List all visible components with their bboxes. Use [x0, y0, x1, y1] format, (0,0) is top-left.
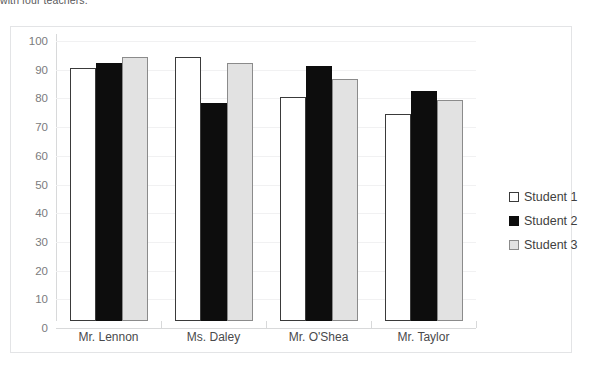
y-tick-label-40: 40 — [35, 207, 48, 219]
y-tick-label-10: 10 — [35, 293, 48, 305]
legend-item-series-3[interactable]: Student 3 — [509, 233, 591, 257]
bar-4-series-2[interactable] — [411, 91, 437, 321]
category-label-1: Mr. Lennon — [78, 330, 138, 344]
legend-label-series-1: Student 1 — [524, 190, 578, 204]
bar-group-3: Mr. O'Shea — [266, 34, 371, 321]
legend-item-series-2[interactable]: Student 2 — [509, 209, 591, 233]
plot-area: 1009080706050403020100 Mr. LennonMs. Dal… — [56, 34, 476, 328]
bar-2-series-1[interactable] — [175, 57, 201, 321]
y-tick-label-50: 50 — [35, 179, 48, 191]
category-divider-1 — [161, 321, 162, 328]
bar-3-series-2[interactable] — [306, 66, 332, 321]
chart-frame: 1009080706050403020100 Mr. LennonMs. Dal… — [10, 26, 572, 353]
bar-1-series-1[interactable] — [70, 68, 96, 321]
gridline-0 — [56, 328, 476, 329]
y-tick-label-60: 60 — [35, 150, 48, 162]
clipped-caption-text: with four teachers. — [0, 0, 200, 6]
bar-group-1: Mr. Lennon — [56, 34, 161, 321]
bar-3-series-3[interactable] — [332, 79, 358, 322]
legend-swatch-icon-series-1 — [509, 192, 519, 202]
chart-legend: Student 1Student 2Student 3 — [509, 185, 591, 257]
bar-4-series-1[interactable] — [385, 114, 411, 321]
legend-swatch-icon-series-3 — [509, 240, 519, 250]
bar-2-series-3[interactable] — [227, 63, 253, 321]
bar-group-4: Mr. Taylor — [371, 34, 476, 321]
bar-group-2: Ms. Daley — [161, 34, 266, 321]
bar-3-series-1[interactable] — [280, 97, 306, 321]
bar-1-series-2[interactable] — [96, 63, 122, 321]
bar-2-series-2[interactable] — [201, 103, 227, 321]
legend-label-series-3: Student 3 — [524, 238, 578, 252]
y-tick-label-100: 100 — [29, 35, 48, 47]
y-tick-label-30: 30 — [35, 236, 48, 248]
legend-label-series-2: Student 2 — [524, 214, 578, 228]
y-tick-label-90: 90 — [35, 64, 48, 76]
legend-swatch-icon-series-2 — [509, 216, 519, 226]
category-divider-2 — [266, 321, 267, 328]
y-tick-label-20: 20 — [35, 265, 48, 277]
y-tick-label-70: 70 — [35, 121, 48, 133]
legend-item-series-1[interactable]: Student 1 — [509, 185, 591, 209]
y-tick-label-0: 0 — [42, 322, 48, 334]
y-tick-label-80: 80 — [35, 92, 48, 104]
bar-1-series-3[interactable] — [122, 57, 148, 321]
category-divider-end — [476, 321, 477, 328]
category-label-3: Mr. O'Shea — [289, 330, 349, 344]
category-label-2: Ms. Daley — [187, 330, 240, 344]
category-divider-3 — [371, 321, 372, 328]
bar-4-series-3[interactable] — [437, 100, 463, 321]
category-label-4: Mr. Taylor — [398, 330, 450, 344]
